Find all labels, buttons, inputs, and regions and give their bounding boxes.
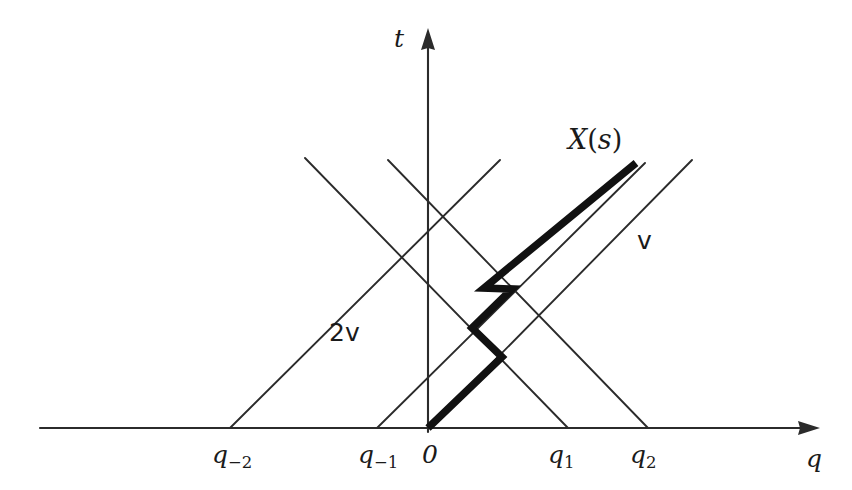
q-axis-label: q <box>806 446 822 471</box>
tick-label-origin: 0 <box>422 442 438 471</box>
tick-label-q-minus-1: q−1 <box>358 442 398 471</box>
tick-label-q-minus-2: q−2 <box>212 442 252 471</box>
t-axis-label: t <box>394 26 404 51</box>
tick-base-q-minus-2: q <box>212 440 228 469</box>
trajectory-label-close-paren: ) <box>612 124 623 155</box>
trajectory-label-base: X <box>568 124 587 155</box>
tick-base-q-2: q <box>630 440 646 469</box>
characteristic-up-right-from-q-minus-1 <box>377 163 645 428</box>
tick-base-origin: 0 <box>422 440 438 469</box>
q-axis-arrowhead <box>798 421 820 435</box>
tick-label-q-1: q1 <box>548 442 575 471</box>
rate-label-2v: 2v <box>329 320 360 345</box>
tick-base-q-1: q <box>548 440 564 469</box>
tick-sub-q-minus-1: −1 <box>374 453 398 472</box>
t-axis-arrowhead <box>421 28 435 50</box>
trajectory-label-arg: s <box>598 124 612 155</box>
tick-base-q-minus-1: q <box>358 440 374 469</box>
tick-label-q-2: q2 <box>630 442 657 471</box>
trajectory-label: X(s) <box>568 126 622 153</box>
tick-sub-q-1: 1 <box>564 453 575 472</box>
rate-label-v: v <box>637 228 652 253</box>
tick-sub-q-minus-2: −2 <box>228 453 252 472</box>
spacetime-figure: t q q−2 q−1 0 q1 q2 2v v X(s) <box>0 0 852 490</box>
characteristic-down-right-to-q-1 <box>305 158 568 428</box>
characteristic-up-right-from-q-minus-2 <box>230 160 500 428</box>
tick-sub-q-2: 2 <box>646 453 657 472</box>
trajectory-label-open-paren: ( <box>587 124 598 155</box>
diagram-canvas <box>0 0 852 490</box>
